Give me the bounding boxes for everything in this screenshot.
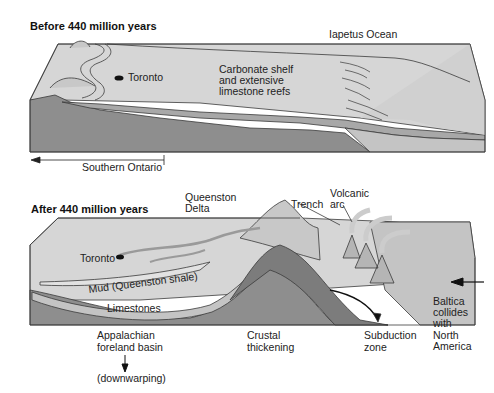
volcanic-arc-label-2: arc: [330, 199, 345, 211]
iapetus-ocean-label: Iapetus Ocean: [329, 29, 397, 41]
basin-label-1: Appalachian: [97, 330, 155, 342]
shelf-label-3: limestone reefs: [219, 86, 290, 98]
crustal-thickening-label-1: Crustal: [247, 330, 280, 342]
basin-label-2: foreland basin: [97, 342, 163, 354]
toronto-label-after: Toronto: [80, 253, 115, 265]
subduction-zone-label-1: Subduction: [364, 330, 417, 342]
baltica-label-3: with: [433, 318, 452, 330]
after-panel-title: After 440 million years: [31, 203, 148, 215]
trench-label: Trench: [291, 199, 323, 211]
downwarping-label: (downwarping): [97, 373, 166, 385]
subduction-zone-label-2: zone: [364, 342, 387, 354]
baltica-label-5: America: [433, 341, 472, 353]
toronto-label-before: Toronto: [128, 72, 163, 84]
before-panel-title: Before 440 million years: [30, 20, 157, 32]
southern-ontario-label: Southern Ontario: [82, 162, 162, 174]
limestones-label: Limestones: [107, 303, 161, 315]
queenston-delta-label-2: Delta: [185, 203, 210, 215]
downwarping-arrow: [122, 355, 128, 372]
crustal-thickening-label-2: thickening: [247, 342, 294, 354]
